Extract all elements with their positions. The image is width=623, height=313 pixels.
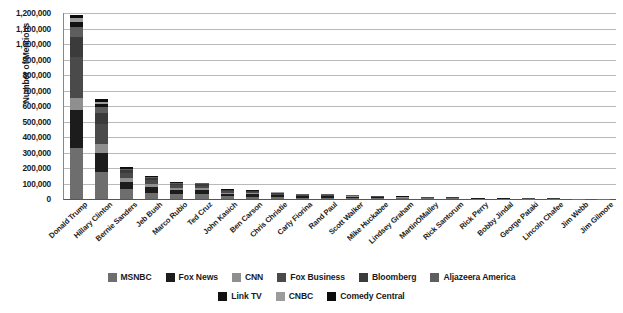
bar-segment[interactable] bbox=[120, 189, 133, 199]
legend-item[interactable]: Aljazeera America bbox=[430, 272, 515, 282]
bar-segment[interactable] bbox=[70, 148, 83, 199]
legend-swatch-icon bbox=[166, 273, 175, 282]
bar-chart: Number of Mentions 1,200,0001,100,0001,0… bbox=[0, 0, 623, 313]
legend-item[interactable]: Fox Business bbox=[277, 272, 345, 282]
y-axis-tick-label: 700,000 bbox=[0, 86, 51, 96]
bar-segment[interactable] bbox=[221, 196, 234, 199]
bar-segment[interactable] bbox=[120, 182, 133, 190]
bar-group[interactable] bbox=[471, 198, 484, 199]
bar-segment[interactable] bbox=[70, 37, 83, 57]
legend-swatch-icon bbox=[276, 292, 285, 301]
y-axis-tick-label: 500,000 bbox=[0, 117, 51, 127]
legend-label: Link TV bbox=[231, 291, 261, 301]
bars-layer bbox=[64, 13, 616, 199]
bar-segment[interactable] bbox=[145, 193, 158, 199]
legend-label: CNBC bbox=[289, 291, 313, 301]
legend-label: Fox Business bbox=[290, 272, 345, 282]
bar-segment[interactable] bbox=[95, 172, 108, 199]
legend-swatch-icon bbox=[277, 273, 286, 282]
bar-segment[interactable] bbox=[421, 198, 434, 199]
bar-segment[interactable] bbox=[446, 198, 459, 199]
bar-group[interactable] bbox=[120, 167, 133, 199]
legend-item[interactable]: Link TV bbox=[218, 291, 261, 301]
bar-group[interactable] bbox=[95, 99, 108, 199]
bar-group[interactable] bbox=[145, 176, 158, 199]
y-axis-tick-label: 0 bbox=[0, 194, 51, 204]
bar-segment[interactable] bbox=[271, 197, 284, 199]
y-axis-tick-label: 100,000 bbox=[0, 179, 51, 189]
y-axis-tick-label: 1,200,000 bbox=[0, 8, 51, 18]
bar-group[interactable] bbox=[396, 196, 409, 199]
legend-item[interactable]: CNBC bbox=[276, 291, 313, 301]
bar-segment[interactable] bbox=[95, 113, 108, 124]
legend-label: CNN bbox=[245, 272, 263, 282]
y-axis-tick-label: 300,000 bbox=[0, 148, 51, 158]
legend-item[interactable]: Comedy Central bbox=[327, 291, 405, 301]
legend-swatch-icon bbox=[218, 292, 227, 301]
legend-item[interactable]: Fox News bbox=[166, 272, 218, 282]
plot-area: 1,200,0001,100,0001,000,000900,000800,00… bbox=[63, 13, 616, 200]
y-axis-tick-label: 1,100,000 bbox=[0, 24, 51, 34]
bar-group[interactable] bbox=[497, 198, 510, 199]
bar-group[interactable] bbox=[547, 198, 560, 199]
bar-segment[interactable] bbox=[246, 197, 259, 199]
bar-segment[interactable] bbox=[95, 153, 108, 172]
bar-group[interactable] bbox=[170, 182, 183, 199]
bar-segment[interactable] bbox=[70, 98, 83, 110]
bar-segment[interactable] bbox=[346, 198, 359, 199]
legend-label: Comedy Central bbox=[340, 291, 405, 301]
legend-swatch-icon bbox=[359, 273, 368, 282]
y-axis-tick-label: 1,000,000 bbox=[0, 39, 51, 49]
x-axis-tick-labels: Donald TrumpHillary ClintonBernie Sander… bbox=[63, 200, 615, 266]
bar-segment[interactable] bbox=[195, 194, 208, 199]
bar-segment[interactable] bbox=[296, 198, 309, 199]
y-axis-tick-label: 600,000 bbox=[0, 101, 51, 111]
y-axis-tick-label: 400,000 bbox=[0, 132, 51, 142]
legend-swatch-icon bbox=[430, 273, 439, 282]
legend-row-primary: MSNBCFox NewsCNNFox BusinessBloombergAlj… bbox=[0, 272, 623, 282]
legend-label: Aljazeera America bbox=[443, 272, 515, 282]
legend-item[interactable]: CNN bbox=[232, 272, 263, 282]
legend-swatch-icon bbox=[327, 292, 336, 301]
bar-group[interactable] bbox=[421, 197, 434, 199]
legend-item[interactable]: Bloomberg bbox=[359, 272, 416, 282]
bar-group[interactable] bbox=[221, 189, 234, 199]
bar-group[interactable] bbox=[246, 190, 259, 199]
legend-swatch-icon bbox=[232, 273, 241, 282]
y-axis-tick-label: 200,000 bbox=[0, 163, 51, 173]
y-axis-tick-label: 800,000 bbox=[0, 70, 51, 80]
legend-row-secondary: Link TVCNBCComedy Central bbox=[0, 291, 623, 301]
bar-segment[interactable] bbox=[95, 124, 108, 144]
bar-segment[interactable] bbox=[371, 198, 384, 199]
bar-segment[interactable] bbox=[321, 198, 334, 199]
bar-segment[interactable] bbox=[170, 194, 183, 199]
legend-label: Fox News bbox=[179, 272, 218, 282]
bar-group[interactable] bbox=[271, 192, 284, 199]
bar-segment[interactable] bbox=[70, 57, 83, 97]
bar-group[interactable] bbox=[70, 15, 83, 199]
bar-segment[interactable] bbox=[70, 27, 83, 37]
bar-group[interactable] bbox=[371, 196, 384, 199]
legend-swatch-icon bbox=[108, 273, 117, 282]
bar-group[interactable] bbox=[446, 197, 459, 199]
legend-label: Bloomberg bbox=[372, 272, 416, 282]
bar-segment[interactable] bbox=[70, 110, 83, 148]
bar-group[interactable] bbox=[321, 194, 334, 199]
bar-segment[interactable] bbox=[95, 144, 108, 153]
bar-group[interactable] bbox=[572, 199, 585, 200]
bar-group[interactable] bbox=[522, 198, 535, 199]
bar-group[interactable] bbox=[195, 183, 208, 199]
bar-group[interactable] bbox=[346, 195, 359, 199]
bar-group[interactable] bbox=[296, 194, 309, 199]
bar-segment[interactable] bbox=[396, 198, 409, 199]
legend-label: MSNBC bbox=[121, 272, 152, 282]
y-axis-tick-label: 900,000 bbox=[0, 55, 51, 65]
legend-item[interactable]: MSNBC bbox=[108, 272, 152, 282]
